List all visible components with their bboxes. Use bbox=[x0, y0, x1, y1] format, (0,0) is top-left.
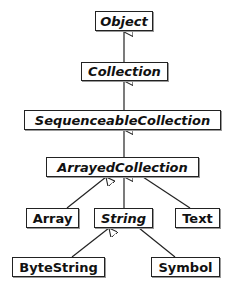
edge-symbol-string bbox=[139, 228, 175, 257]
inheritance-edges bbox=[0, 0, 236, 292]
class-node-object: Object bbox=[95, 11, 153, 31]
class-node-text: Text bbox=[175, 208, 220, 228]
class-node-array: Array bbox=[26, 208, 79, 228]
class-node-symbol: Symbol bbox=[151, 257, 220, 277]
class-node-bytestring: ByteString bbox=[12, 257, 105, 277]
class-node-collection: Collection bbox=[81, 62, 168, 81]
class-node-sequenceable-collection: SequenceableCollection bbox=[24, 110, 221, 130]
class-node-string: String bbox=[94, 208, 153, 228]
class-node-arrayed-collection: ArrayedCollection bbox=[46, 157, 199, 177]
edge-text-arrayed bbox=[143, 177, 190, 208]
edge-bytestring-string bbox=[72, 228, 109, 257]
edge-array-arrayed bbox=[67, 177, 106, 208]
